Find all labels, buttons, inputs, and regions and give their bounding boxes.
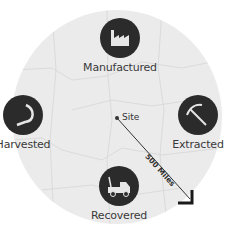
node-label: Extracted <box>158 139 233 151</box>
pickaxe-icon <box>178 95 218 135</box>
tow-truck-icon <box>99 166 139 206</box>
node-label: Manufactured <box>80 62 160 74</box>
node-label: Harvested <box>0 139 63 151</box>
sourcing-radius-map: Site 500 Miles Manufactured Harvested Ex… <box>0 0 233 239</box>
node-harvested: Harvested <box>0 95 63 151</box>
node-label: Recovered <box>79 210 159 222</box>
node-recovered: Recovered <box>79 166 159 222</box>
site-marker <box>115 116 119 120</box>
sickle-icon <box>3 95 43 135</box>
factory-icon <box>100 18 140 58</box>
site-label: Site <box>122 112 139 122</box>
node-manufactured: Manufactured <box>80 18 160 74</box>
node-extracted: Extracted <box>158 95 233 151</box>
